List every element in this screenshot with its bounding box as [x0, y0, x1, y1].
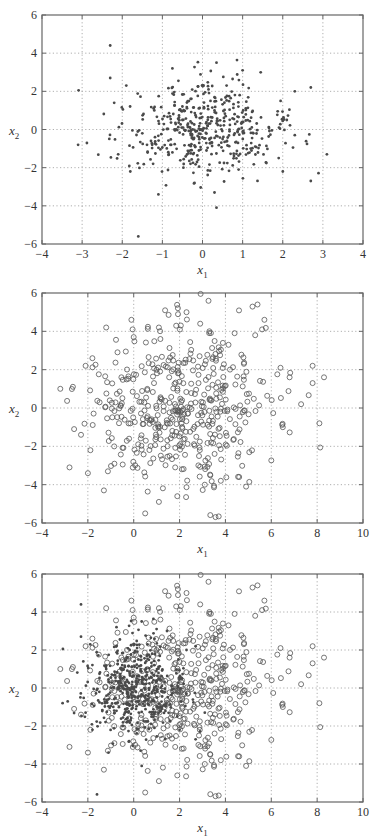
scatter-plot-class2: −4−20246810−6−4−20246x1x2: [0, 278, 385, 558]
x-tick-label: 0: [131, 805, 137, 819]
x-tick-label: −2: [81, 805, 94, 819]
y-tick-label: 0: [31, 401, 37, 415]
x-tick-label: 4: [360, 247, 366, 261]
x-tick-label: 8: [314, 526, 320, 540]
scatter-panel-1: −4−3−2−101234−6−4−20246x1x2: [0, 0, 385, 280]
y-tick-label: 0: [31, 681, 37, 695]
y-tick-label: 6: [31, 286, 37, 300]
scatter-panel-2: −4−20246810−6−4−20246x1x2: [0, 278, 385, 558]
x-tick-label: −3: [76, 247, 89, 261]
scatter-panel-3: −4−20246810−6−4−20246x1x2: [0, 559, 385, 840]
y-tick-label: −4: [24, 478, 37, 492]
x-tick-label: 4: [222, 526, 228, 540]
x-tick-label: 2: [177, 526, 183, 540]
y-tick-label: 4: [31, 46, 37, 60]
y-tick-label: −2: [24, 719, 37, 733]
x-tick-label: −4: [36, 247, 49, 261]
y-tick-label: −6: [24, 237, 37, 251]
y-axis-label: x2: [8, 401, 19, 419]
x-tick-label: 0: [131, 526, 137, 540]
x-tick-label: −2: [81, 526, 94, 540]
y-tick-label: −6: [24, 516, 37, 530]
scatter-plot-class1: −4−3−2−101234−6−4−20246x1x2: [0, 0, 385, 280]
scatter-plot-combined: −4−20246810−6−4−20246x1x2: [0, 559, 385, 840]
x-tick-label: 3: [320, 247, 326, 261]
x-tick-label: −2: [116, 247, 129, 261]
x-tick-label: −4: [36, 526, 49, 540]
y-tick-label: 4: [31, 324, 37, 338]
x-tick-label: 4: [222, 805, 228, 819]
x-tick-label: 0: [200, 247, 206, 261]
y-tick-label: 2: [31, 363, 37, 377]
y-tick-label: −2: [24, 439, 37, 453]
x-tick-label: −1: [156, 247, 169, 261]
y-tick-label: −4: [24, 757, 37, 771]
y-tick-label: 2: [31, 84, 37, 98]
x-tick-label: 6: [268, 526, 274, 540]
x-tick-label: −4: [36, 805, 49, 819]
y-tick-label: 0: [31, 123, 37, 137]
y-tick-label: 6: [31, 567, 37, 581]
x-tick-label: 6: [268, 805, 274, 819]
x-tick-label: 2: [177, 805, 183, 819]
x-tick-label: 2: [280, 247, 286, 261]
x-tick-label: 10: [357, 805, 369, 819]
y-axis-label: x2: [8, 123, 19, 141]
y-tick-label: −6: [24, 795, 37, 809]
y-axis-label: x2: [8, 681, 19, 699]
x-tick-label: 8: [314, 805, 320, 819]
y-tick-label: −2: [24, 161, 37, 175]
x-tick-label: 1: [240, 247, 246, 261]
x-axis-label: x1: [196, 820, 207, 838]
y-tick-label: 6: [31, 8, 37, 22]
x-axis-label: x1: [196, 541, 207, 558]
x-tick-label: 10: [357, 526, 369, 540]
y-tick-label: 2: [31, 643, 37, 657]
y-tick-label: 4: [31, 605, 37, 619]
y-tick-label: −4: [24, 199, 37, 213]
